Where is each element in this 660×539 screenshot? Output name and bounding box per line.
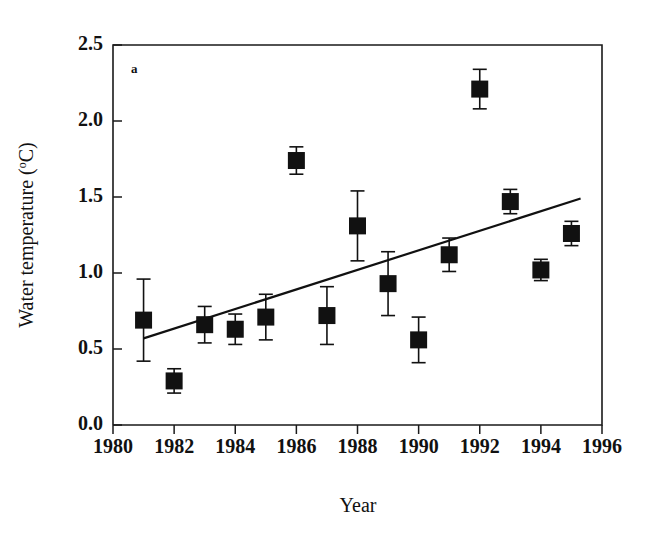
- data-marker-square: [196, 316, 213, 333]
- x-tick-label: 1996: [582, 435, 622, 457]
- x-axis-title: Year: [340, 494, 377, 516]
- data-marker-square: [532, 261, 549, 278]
- data-marker-square: [288, 152, 305, 169]
- water-temperature-scatter-chart: 198019821984198619881990199219941996 0.0…: [0, 0, 660, 539]
- data-marker-square: [135, 312, 152, 329]
- figure-panel: 198019821984198619881990199219941996 0.0…: [0, 0, 660, 539]
- data-point: [532, 259, 549, 280]
- y-axis-title-main: Water temperature (: [15, 168, 38, 328]
- data-point: [318, 287, 335, 345]
- y-axis-title-tail: C): [15, 142, 38, 162]
- x-tick-label: 1992: [460, 435, 500, 457]
- data-point: [563, 221, 580, 245]
- x-tick-label: 1984: [215, 435, 255, 457]
- data-point: [471, 69, 488, 109]
- x-axis-ticks: [113, 425, 602, 434]
- x-tick-label: 1994: [521, 435, 561, 457]
- data-marker-square: [502, 193, 519, 210]
- data-point: [288, 147, 305, 174]
- data-marker-square: [227, 321, 244, 338]
- data-marker-square: [471, 81, 488, 98]
- data-point: [227, 314, 244, 344]
- data-marker-square: [441, 246, 458, 263]
- data-point: [135, 279, 152, 361]
- data-points-layer: [135, 69, 580, 393]
- data-marker-square: [318, 307, 335, 324]
- y-tick-label: 1.0: [78, 260, 103, 282]
- y-axis-ticks: [113, 45, 122, 425]
- data-marker-square: [410, 331, 427, 348]
- data-marker-square: [380, 275, 397, 292]
- y-tick-label: 1.5: [78, 184, 103, 206]
- data-point: [502, 189, 519, 213]
- panel-label: a: [131, 61, 138, 76]
- y-tick-label: 0.0: [78, 412, 103, 434]
- data-marker-square: [166, 372, 183, 389]
- y-tick-label: 2.5: [78, 32, 103, 54]
- data-marker-square: [563, 225, 580, 242]
- x-tick-label: 1982: [154, 435, 194, 457]
- y-tick-label: 0.5: [78, 336, 103, 358]
- data-point: [410, 317, 427, 363]
- y-axis-tick-labels: 0.00.51.01.52.02.5: [78, 32, 103, 434]
- data-marker-square: [349, 217, 366, 234]
- y-axis-title: Water temperature (oC): [15, 142, 38, 327]
- x-tick-label: 1988: [338, 435, 378, 457]
- data-point: [196, 306, 213, 342]
- y-tick-label: 2.0: [78, 108, 103, 130]
- x-axis-tick-labels: 198019821984198619881990199219941996: [93, 435, 622, 457]
- x-tick-label: 1990: [399, 435, 439, 457]
- x-tick-label: 1986: [276, 435, 316, 457]
- data-point: [349, 191, 366, 261]
- x-tick-label: 1980: [93, 435, 133, 457]
- data-point: [166, 369, 183, 393]
- data-marker-square: [257, 309, 274, 326]
